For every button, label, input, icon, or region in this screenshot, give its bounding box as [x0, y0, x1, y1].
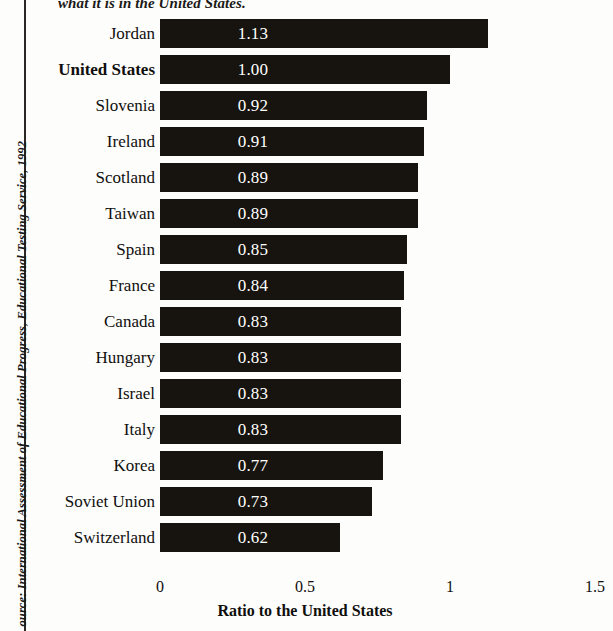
bar-category-label: Spain: [0, 237, 155, 262]
bar-category-label: Soviet Union: [0, 489, 155, 514]
bar: 0.77: [160, 451, 383, 480]
bar: 0.83: [160, 307, 401, 336]
x-axis-title: Ratio to the United States: [160, 602, 450, 620]
bar-row: Italy0.83: [0, 414, 613, 450]
bar-category-label: Jordan: [0, 21, 155, 46]
bar-value-label: 0.89: [160, 199, 346, 228]
bar-row: Jordan1.13: [0, 18, 613, 54]
bar-row: Taiwan0.89: [0, 198, 613, 234]
bar-category-label: France: [0, 273, 155, 298]
bar: 0.84: [160, 271, 404, 300]
bar-value-label: 0.83: [160, 343, 346, 372]
bar-category-label: Israel: [0, 381, 155, 406]
figure-page: ource: International Assessment of Educa…: [0, 0, 613, 631]
bar-category-label: Ireland: [0, 129, 155, 154]
bar-value-label: 0.89: [160, 163, 346, 192]
bar-value-label: 0.73: [160, 487, 346, 516]
bar-category-label: Korea: [0, 453, 155, 478]
x-axis: Ratio to the United States 00.511.5: [0, 578, 613, 631]
x-axis-tick-label: 0.5: [275, 578, 335, 596]
bar-row: Slovenia0.92: [0, 90, 613, 126]
bar-rows: Jordan1.13United States1.00Slovenia0.92I…: [0, 18, 613, 558]
bar: 0.62: [160, 523, 340, 552]
bar: 0.89: [160, 199, 418, 228]
bar-value-label: 0.85: [160, 235, 346, 264]
bar: 1.00: [160, 55, 450, 84]
x-axis-tick-label: 1: [420, 578, 480, 596]
bar-row: Switzerland0.62: [0, 522, 613, 558]
bar-category-label: Hungary: [0, 345, 155, 370]
bar: 0.91: [160, 127, 424, 156]
bar-category-label: United States: [0, 57, 155, 82]
bar-category-label: Slovenia: [0, 93, 155, 118]
bar-category-label: Taiwan: [0, 201, 155, 226]
bar: 0.83: [160, 379, 401, 408]
bar-value-label: 0.77: [160, 451, 346, 480]
bar-row: Canada0.83: [0, 306, 613, 342]
bar-value-label: 1.00: [160, 55, 346, 84]
bar-row: France0.84: [0, 270, 613, 306]
bar-category-label: Canada: [0, 309, 155, 334]
bar-value-label: 0.92: [160, 91, 346, 120]
bar-value-label: 0.62: [160, 523, 346, 552]
bar-row: Scotland0.89: [0, 162, 613, 198]
bar-category-label: Switzerland: [0, 525, 155, 550]
bar: 0.73: [160, 487, 372, 516]
bar: 0.89: [160, 163, 418, 192]
bar-row: Hungary0.83: [0, 342, 613, 378]
figure-title: what it is in the United States.: [58, 0, 528, 12]
bar-value-label: 1.13: [160, 19, 346, 48]
bar: 0.85: [160, 235, 407, 264]
bar-row: United States1.00: [0, 54, 613, 90]
bar: 0.92: [160, 91, 427, 120]
bar: 0.83: [160, 343, 401, 372]
bar-row: Spain0.85: [0, 234, 613, 270]
bar-row: Soviet Union0.73: [0, 486, 613, 522]
bar-chart: Jordan1.13United States1.00Slovenia0.92I…: [0, 18, 613, 618]
bar-category-label: Scotland: [0, 165, 155, 190]
x-axis-tick-label: 0: [130, 578, 190, 596]
bar-row: Israel0.83: [0, 378, 613, 414]
bar-row: Ireland0.91: [0, 126, 613, 162]
x-axis-tick-label: 1.5: [565, 578, 613, 596]
bar-value-label: 0.91: [160, 127, 346, 156]
bar-value-label: 0.83: [160, 307, 346, 336]
bar: 0.83: [160, 415, 401, 444]
bar-value-label: 0.83: [160, 379, 346, 408]
bar: 1.13: [160, 19, 488, 48]
bar-value-label: 0.83: [160, 415, 346, 444]
bar-row: Korea0.77: [0, 450, 613, 486]
bar-value-label: 0.84: [160, 271, 346, 300]
bar-category-label: Italy: [0, 417, 155, 442]
